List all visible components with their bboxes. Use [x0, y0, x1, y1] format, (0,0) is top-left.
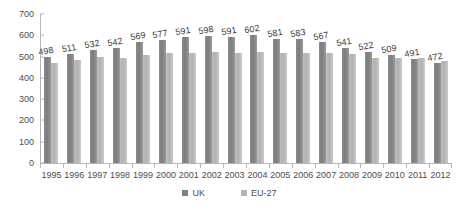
bar-group: 498 — [40, 14, 63, 163]
x-axis-tick-mark — [451, 164, 452, 168]
x-axis-tick-label: 2004 — [246, 164, 269, 182]
bar-uk: 583 — [296, 39, 303, 163]
x-axis-tick-mark — [269, 164, 270, 168]
x-axis-tick-mark — [360, 164, 361, 168]
x-axis-tick-mark — [246, 164, 247, 168]
bar-eu27 — [257, 52, 264, 163]
bar-uk: 577 — [159, 40, 166, 163]
bar-value-label: 602 — [244, 23, 261, 35]
bar-eu27 — [51, 63, 58, 163]
bar-uk: 591 — [182, 37, 189, 163]
legend-item-eu27: EU-27 — [241, 188, 277, 198]
x-axis-tick-label: 2006 — [292, 164, 315, 182]
bar-uk: 472 — [434, 63, 441, 163]
bar-value-label: 598 — [198, 24, 215, 36]
bar-uk: 598 — [205, 36, 212, 163]
chart-legend: UK EU-27 — [0, 188, 459, 198]
bar-eu27 — [441, 61, 448, 163]
bar-group: 581 — [269, 14, 292, 163]
x-axis-tick-mark — [132, 164, 133, 168]
bar-group: 602 — [246, 14, 269, 163]
bar-value-label: 591 — [221, 25, 238, 37]
bar-uk: 522 — [365, 52, 372, 163]
x-axis-tick-label: 1997 — [86, 164, 109, 182]
bar-group: 591 — [223, 14, 246, 163]
bar-uk: 591 — [228, 37, 235, 163]
bar-group: 583 — [292, 14, 315, 163]
x-axis-tick-mark — [200, 164, 201, 168]
x-axis-tick-mark — [429, 164, 430, 168]
x-axis-tick-mark — [154, 164, 155, 168]
bar-eu27 — [372, 58, 379, 163]
x-axis-tick-label: 2012 — [429, 164, 452, 182]
bar-value-label: 509 — [381, 43, 398, 55]
bar-uk: 567 — [319, 42, 326, 163]
y-axis-tick-label: 600 — [19, 30, 40, 40]
bar-value-label: 577 — [152, 28, 169, 40]
y-axis-tick-label: 500 — [19, 52, 40, 62]
x-axis-tick-label: 1999 — [132, 164, 155, 182]
bar-eu27 — [395, 58, 402, 163]
bar-uk: 498 — [44, 57, 51, 163]
bar-group: 472 — [429, 14, 452, 163]
x-axis-tick-label: 1998 — [109, 164, 132, 182]
x-axis-tick-mark — [109, 164, 110, 168]
legend-label-eu27: EU-27 — [251, 188, 277, 198]
bar-eu27 — [349, 54, 356, 163]
x-axis-tick-label: 2005 — [269, 164, 292, 182]
x-axis-tick-label: 2010 — [383, 164, 406, 182]
bar-group: 509 — [383, 14, 406, 163]
bar-uk: 602 — [250, 35, 257, 163]
bar-eu27 — [97, 57, 104, 163]
bar-eu27 — [74, 60, 81, 163]
bar-value-label: 542 — [106, 35, 123, 47]
x-axis-tick-mark — [177, 164, 178, 168]
legend-label-uk: UK — [192, 188, 205, 198]
bar-value-label: 591 — [175, 25, 192, 37]
bar-group: 577 — [154, 14, 177, 163]
bar-value-label: 583 — [289, 27, 306, 39]
bar-value-label: 522 — [358, 40, 375, 52]
bar-group: 569 — [132, 14, 155, 163]
bar-eu27 — [143, 55, 150, 163]
x-axis-tick-label: 2011 — [406, 164, 429, 182]
bar-eu27 — [418, 58, 425, 163]
legend-item-uk: UK — [182, 188, 205, 198]
bar-value-label: 567 — [312, 30, 329, 42]
x-axis-tick-mark — [63, 164, 64, 168]
bar-value-label: 498 — [38, 45, 55, 57]
bar-group: 532 — [86, 14, 109, 163]
bar-eu27 — [326, 53, 333, 163]
x-axis-tick-label: 2003 — [223, 164, 246, 182]
bar-eu27 — [189, 53, 196, 163]
uk-swatch-icon — [182, 190, 188, 196]
bar-uk: 509 — [388, 55, 395, 163]
eu27-swatch-icon — [241, 190, 247, 196]
bar-uk: 491 — [411, 59, 418, 164]
bar-value-label: 511 — [61, 42, 77, 54]
y-axis-tick-label: 400 — [19, 73, 40, 83]
bar-value-label: 581 — [267, 27, 284, 39]
y-axis-tick-label: 300 — [19, 94, 40, 104]
bar-uk: 542 — [113, 48, 120, 163]
x-axis-labels: 1995199619971998199920002001200220032004… — [40, 164, 452, 182]
bar-groups: 4985115325425695775915985916025815835675… — [40, 14, 452, 163]
x-axis-tick-mark — [40, 164, 41, 168]
x-axis-tick-mark — [406, 164, 407, 168]
x-axis-tick-label: 2008 — [338, 164, 361, 182]
bar-group: 567 — [315, 14, 338, 163]
x-axis-tick-label: 1995 — [40, 164, 63, 182]
x-axis-tick-label: 2009 — [360, 164, 383, 182]
x-axis-tick-mark — [338, 164, 339, 168]
bar-uk: 581 — [273, 39, 280, 163]
bar-uk: 511 — [67, 54, 74, 163]
bar-group: 511 — [63, 14, 86, 163]
x-axis-tick-label: 1996 — [63, 164, 86, 182]
bar-value-label: 569 — [129, 30, 146, 42]
x-axis-tick-label: 2000 — [154, 164, 177, 182]
x-axis-tick-label: 2002 — [200, 164, 223, 182]
bar-eu27 — [212, 52, 219, 163]
x-axis-tick-label: 2001 — [177, 164, 200, 182]
x-axis-tick-mark — [292, 164, 293, 168]
bar-uk: 569 — [136, 42, 143, 163]
